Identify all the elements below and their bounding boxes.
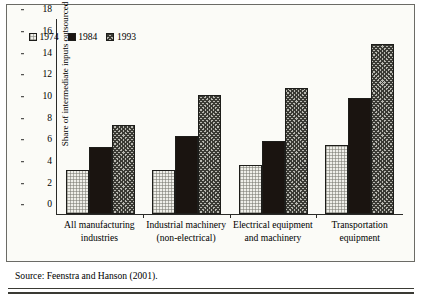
bar-1993[interactable] xyxy=(285,88,308,214)
y-axis-tick-label: 2 xyxy=(24,178,57,188)
bar-1993[interactable] xyxy=(371,44,394,214)
y-axis-tick-label: 4 xyxy=(24,156,57,166)
bar-1984[interactable] xyxy=(262,141,285,214)
plot-area: 024681012141618 xyxy=(56,19,403,215)
y-axis-tick-mark xyxy=(21,31,25,32)
bar-1974[interactable] xyxy=(325,145,348,214)
bar-1974[interactable] xyxy=(239,165,262,214)
bar-1984[interactable] xyxy=(89,147,112,214)
bar-1974[interactable] xyxy=(66,170,89,214)
legend-item-1984[interactable]: 1984 xyxy=(68,32,98,42)
bar-group-bars xyxy=(57,19,144,214)
bar-groups xyxy=(57,19,403,214)
y-axis-tick-label: 6 xyxy=(24,135,57,145)
x-axis-labels: All manufacturing industriesIndustrial m… xyxy=(56,219,403,244)
y-axis-tick-label: 18 xyxy=(24,5,57,15)
x-axis-tick-mark xyxy=(143,214,144,218)
legend-item-label: 1974 xyxy=(40,32,59,42)
x-axis-category-label: Transportation equipment xyxy=(316,219,403,244)
x-axis-category-label: Industrial machinery (non-electrical) xyxy=(143,219,230,244)
y-axis-tick-label: 8 xyxy=(24,113,57,123)
bar-group xyxy=(230,19,317,214)
bar-group xyxy=(144,19,231,214)
y-axis-tick-mark xyxy=(21,9,25,10)
x-axis-category-label: Electrical equipment and machinery xyxy=(230,219,317,244)
legend-item-1974[interactable]: 1974 xyxy=(29,32,59,42)
bar-1993[interactable] xyxy=(112,125,135,214)
chart-legend: 197419841993 xyxy=(29,32,136,42)
y-axis-tick-mark xyxy=(21,74,25,75)
x-axis-tick-mark xyxy=(316,214,317,218)
y-axis-tick-mark xyxy=(21,161,25,162)
legend-item-1993[interactable]: 1993 xyxy=(106,32,136,42)
figure-frame: Share of intermediate inputs outsourced … xyxy=(6,4,415,262)
legend-swatch-1993 xyxy=(106,33,114,41)
y-axis-tick-label: 0 xyxy=(24,200,57,210)
bar-group xyxy=(57,19,144,214)
x-axis-category-label: All manufacturing industries xyxy=(56,219,143,244)
y-axis-tick-label: 12 xyxy=(24,70,57,80)
y-axis-tick-mark xyxy=(21,204,25,205)
y-axis-tick-mark xyxy=(21,139,25,140)
bar-group-bars xyxy=(144,19,231,214)
y-axis-tick-mark xyxy=(21,96,25,97)
bar-group-bars xyxy=(230,19,317,214)
bar-1993[interactable] xyxy=(198,95,221,214)
footer-rule-bottom xyxy=(8,292,414,294)
bar-group xyxy=(317,19,404,214)
y-axis-tick-label: 10 xyxy=(24,91,57,101)
bar-1974[interactable] xyxy=(152,170,175,214)
y-axis-tick-mark xyxy=(21,53,25,54)
y-axis-tick-label: 14 xyxy=(24,48,57,58)
footer-rule-top xyxy=(8,288,414,289)
x-axis-tick-mark xyxy=(230,214,231,218)
legend-swatch-1984 xyxy=(68,33,76,41)
y-axis-tick-mark xyxy=(21,118,25,119)
bar-1984[interactable] xyxy=(175,136,198,214)
legend-item-label: 1984 xyxy=(78,32,97,42)
bar-group-bars xyxy=(317,19,404,214)
source-note: Source: Feenstra and Hanson (2001). xyxy=(15,271,158,281)
legend-swatch-1974 xyxy=(29,33,37,41)
plot-inner: 024681012141618 xyxy=(57,19,403,214)
bar-1984[interactable] xyxy=(348,98,371,214)
legend-item-label: 1993 xyxy=(117,32,136,42)
y-axis-tick-mark xyxy=(21,183,25,184)
